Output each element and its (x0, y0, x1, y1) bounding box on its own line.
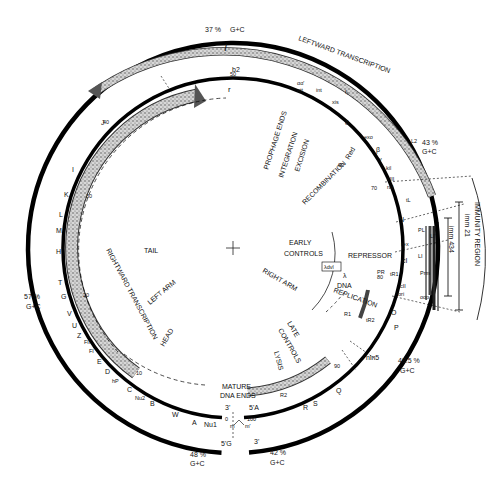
svg-text:M: M (56, 227, 62, 234)
svg-text:V: V (67, 310, 72, 317)
svg-text:HEAD: HEAD (159, 327, 175, 347)
svg-text:tR1: tR1 (390, 271, 399, 277)
svg-text:LEFT ARM: LEFT ARM (146, 278, 177, 305)
svg-text:exo: exo (364, 134, 373, 140)
svg-text:f₁: f₁ (345, 89, 349, 95)
svg-text:5'G: 5'G (221, 440, 232, 447)
svg-text:S: S (313, 400, 318, 407)
svg-text:H: H (56, 248, 61, 255)
svg-text:G+C: G+C (190, 460, 205, 467)
svg-text:5'A: 5'A (249, 404, 259, 411)
svg-text:10: 10 (136, 370, 142, 376)
svg-text:αα': αα' (297, 80, 304, 86)
svg-text:FI: FI (89, 348, 94, 354)
svg-text:B: B (150, 400, 155, 407)
svg-text:cI: cI (402, 257, 408, 264)
svg-text:ral: ral (387, 184, 393, 190)
svg-text:δ: δ (345, 119, 349, 126)
svg-text:CONTROLS: CONTROLS (284, 250, 323, 257)
svg-text:λdvl: λdvl (324, 264, 334, 270)
svg-text:D: D (105, 368, 110, 375)
svg-text:imm 21: imm 21 (464, 214, 471, 237)
svg-text:m': m' (245, 423, 251, 429)
svg-text:R1: R1 (344, 311, 351, 317)
svg-text:att: att (297, 87, 304, 93)
svg-text:RECOMBINATION: RECOMBINATION (301, 159, 347, 205)
svg-text:G+C: G+C (422, 148, 437, 155)
svg-text:Nu2: Nu2 (135, 395, 145, 401)
svg-text:oop: oop (420, 294, 429, 300)
svg-text:λ: λ (343, 272, 347, 279)
svg-text:3': 3' (225, 404, 230, 411)
l-strand-label: l (224, 41, 227, 53)
svg-text:J: J (101, 119, 105, 126)
svg-text:DNA ENDS: DNA ENDS (220, 392, 256, 399)
svg-text:0: 0 (225, 416, 228, 422)
svg-text:xis: xis (332, 99, 339, 105)
svg-text:42 %: 42 % (270, 449, 286, 456)
svg-text:A: A (192, 419, 197, 426)
svg-text:γ: γ (379, 156, 382, 162)
svg-text:K: K (64, 191, 69, 198)
svg-text:FII: FII (84, 339, 91, 345)
svg-text:C: C (127, 386, 132, 393)
svg-text:tL: tL (406, 197, 411, 203)
svg-text:48 %: 48 % (190, 451, 206, 458)
svg-text:PR: PR (377, 269, 385, 275)
svg-text:PL: PL (418, 227, 425, 233)
svg-text:R: R (303, 404, 308, 411)
svg-text:rex: rex (401, 241, 409, 247)
b2-label: b2 (232, 66, 240, 73)
svg-text:Q: Q (336, 387, 342, 395)
dna-end-labels: 3' 5'A 5'G 3' m m' (221, 404, 259, 447)
svg-text:57 %: 57 % (24, 293, 40, 300)
svg-text:IMMUNITY REGION: IMMUNITY REGION (474, 202, 481, 266)
svg-text:O: O (391, 309, 397, 316)
svg-text:3': 3' (254, 438, 259, 445)
svg-text:LI': LI' (430, 233, 436, 239)
svg-text:G: G (61, 293, 66, 300)
svg-text:43 %: 43 % (422, 139, 438, 146)
svg-text:20: 20 (83, 292, 89, 298)
svg-text:48.5 %: 48.5 % (398, 357, 420, 364)
svg-text:β: β (376, 146, 380, 154)
svg-text:L: L (59, 211, 63, 218)
svg-text:G+C: G+C (400, 367, 415, 374)
svg-text:G+C: G+C (26, 303, 41, 310)
svg-text:G+C: G+C (230, 26, 245, 33)
svg-text:EARLY: EARLY (289, 239, 312, 246)
svg-text:37 %: 37 % (205, 26, 221, 33)
rightward-transcription-label: RIGHTWARD TRANSCRIPTION (105, 247, 159, 340)
svg-text:G+C: G+C (270, 459, 285, 466)
svg-text:Red: Red (344, 146, 357, 161)
svg-text:imm 434: imm 434 (448, 226, 455, 253)
svg-text:TAIL: TAIL (144, 247, 158, 254)
svg-text:REPRESSOR: REPRESSOR (348, 252, 392, 259)
svg-text:cIII: cIII (387, 176, 395, 182)
gc-content-labels: 37 % G+C 43 % G+C 57 % G+C 48.5 % G+C 48… (24, 26, 438, 467)
svg-text:EXCISION: EXCISION (293, 138, 310, 172)
immunity-region-bars (385, 176, 485, 320)
center-mark (226, 241, 240, 255)
svg-text:Z: Z (77, 332, 82, 339)
svg-text:100: 100 (247, 416, 256, 422)
svg-text:U: U (72, 322, 77, 329)
svg-text:30: 30 (86, 193, 92, 199)
svg-text:70: 70 (371, 185, 377, 191)
svg-text:RIGHT ARM: RIGHT ARM (262, 267, 299, 293)
svg-text:N: N (399, 216, 404, 223)
svg-text:T: T (58, 279, 63, 286)
svg-text:tR2: tR2 (366, 317, 375, 323)
svg-text:Prm: Prm (420, 270, 431, 276)
svg-text:W: W (172, 411, 179, 418)
svg-text:MATURE: MATURE (222, 383, 251, 390)
rightward-transcription-arrow (72, 84, 368, 392)
svg-text:hP: hP (112, 378, 119, 384)
svg-text:I: I (72, 166, 74, 173)
svg-text:E: E (97, 358, 102, 365)
svg-text:P: P (394, 324, 399, 331)
svg-text:90: 90 (334, 363, 340, 369)
svg-text:m: m (230, 423, 235, 429)
svg-text:REPLICATION: REPLICATION (333, 286, 379, 308)
svg-text:R2: R2 (280, 392, 287, 398)
